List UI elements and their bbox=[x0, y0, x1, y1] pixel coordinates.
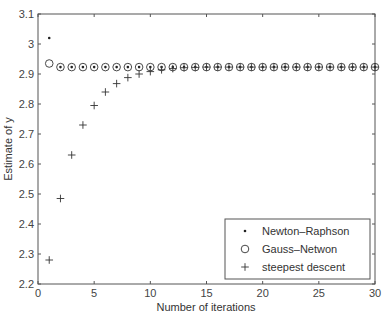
x-tick-label: 5 bbox=[91, 287, 97, 299]
x-tick-label: 30 bbox=[369, 287, 381, 299]
legend: Newton–RaphsonGauss–Netwonsteepest desce… bbox=[225, 219, 370, 279]
dot-marker bbox=[115, 66, 118, 69]
dot-marker bbox=[127, 66, 130, 69]
x-axis-label: Number of iterations bbox=[156, 301, 256, 313]
y-tick-label: 3 bbox=[28, 38, 34, 50]
legend-label: Gauss–Netwon bbox=[262, 243, 337, 255]
x-tick-label: 20 bbox=[257, 287, 269, 299]
x-tick-label: 10 bbox=[144, 287, 156, 299]
dot-marker bbox=[59, 66, 62, 69]
y-tick-label: 2.7 bbox=[19, 128, 34, 140]
chart: 0510152025302.22.32.42.52.62.72.82.933.1… bbox=[0, 0, 390, 317]
legend-label: steepest descent bbox=[262, 261, 345, 273]
dot-marker bbox=[244, 230, 247, 233]
dot-marker bbox=[93, 66, 96, 69]
x-tick-label: 0 bbox=[35, 287, 41, 299]
dot-marker bbox=[48, 37, 51, 40]
y-tick-label: 2.3 bbox=[19, 248, 34, 260]
y-tick-label: 3.1 bbox=[19, 8, 34, 20]
legend-label: Newton–Raphson bbox=[262, 225, 349, 237]
y-tick-label: 2.8 bbox=[19, 98, 34, 110]
x-tick-label: 15 bbox=[200, 287, 212, 299]
y-tick-label: 2.6 bbox=[19, 158, 34, 170]
dot-marker bbox=[138, 66, 141, 69]
dot-marker bbox=[82, 66, 85, 69]
x-tick-label: 25 bbox=[313, 287, 325, 299]
dot-marker bbox=[104, 66, 107, 69]
dot-marker bbox=[70, 66, 73, 69]
y-tick-label: 2.2 bbox=[19, 278, 34, 290]
y-axis-label: Estimate of y bbox=[2, 117, 14, 181]
y-tick-label: 2.5 bbox=[19, 188, 34, 200]
y-tick-label: 2.9 bbox=[19, 68, 34, 80]
y-tick-label: 2.4 bbox=[19, 218, 34, 230]
